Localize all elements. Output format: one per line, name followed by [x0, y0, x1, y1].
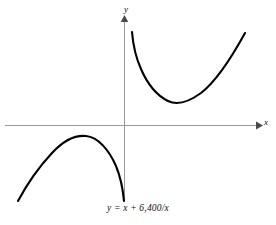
- y-axis-arrowhead: [121, 15, 128, 22]
- x-axis-label: x: [264, 118, 268, 127]
- plot-canvas: [0, 0, 276, 225]
- curve-upper-right-branch: [132, 32, 245, 103]
- x-axis-arrowhead: [256, 122, 263, 130]
- y-axis-label: y: [124, 5, 128, 14]
- curve-lower-left-branch: [18, 136, 124, 201]
- figure-container: y x y = x + 6,400/x: [0, 0, 276, 225]
- figure-caption: y = x + 6,400/x: [0, 203, 276, 213]
